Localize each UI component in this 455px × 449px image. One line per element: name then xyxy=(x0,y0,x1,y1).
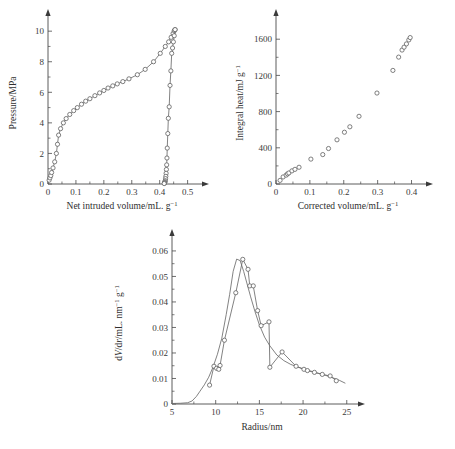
data-point-marker xyxy=(121,80,125,84)
data-point-marker xyxy=(334,379,338,383)
data-point-marker xyxy=(326,146,330,150)
data-point-marker xyxy=(256,309,260,313)
data-point-marker xyxy=(68,112,72,116)
data-point-marker xyxy=(170,51,174,55)
data-point-marker xyxy=(57,133,61,137)
x-axis-tick-label: 15 xyxy=(255,407,265,417)
data-point-marker xyxy=(169,69,173,73)
data-curve-intrusion xyxy=(49,30,175,181)
data-point-marker xyxy=(391,68,395,72)
data-point-marker xyxy=(312,370,316,374)
x-axis-title: Corrected volume/mL. g−1 xyxy=(298,200,399,212)
data-point-marker xyxy=(75,105,79,109)
data-point-marker xyxy=(222,338,226,342)
pressure-chart-svg: 00.10.20.30.40.50246810Net intruded volu… xyxy=(0,0,232,220)
y-axis-tick-label: 4 xyxy=(40,118,45,128)
x-axis-arrow-icon xyxy=(202,181,209,186)
data-point-marker xyxy=(335,138,339,142)
data-point-marker xyxy=(168,83,172,87)
data-point-marker xyxy=(408,35,412,39)
figure-sheet: 00.10.20.30.40.50246810Net intruded volu… xyxy=(0,0,455,449)
data-point-marker xyxy=(143,67,147,71)
y-axis-tick-label: 1600 xyxy=(254,34,273,44)
data-curve-dv-dr-curve xyxy=(172,259,345,403)
data-point-marker xyxy=(241,257,245,261)
data-curve-dv-dr-points xyxy=(210,259,337,385)
data-point-marker xyxy=(267,320,271,324)
y-axis-title: Integral heat/mJ g−1 xyxy=(234,65,246,141)
data-point-marker xyxy=(151,60,155,64)
data-point-marker xyxy=(305,368,309,372)
y-axis-tick-label: 1200 xyxy=(254,71,273,81)
data-point-marker xyxy=(234,291,238,295)
data-point-marker xyxy=(55,142,59,146)
x-axis-tick-label: 25 xyxy=(342,407,352,417)
data-point-marker xyxy=(163,44,167,48)
x-axis-title: Radius/nm xyxy=(241,422,283,432)
data-point-marker xyxy=(167,40,171,44)
x-axis-arrow-icon xyxy=(426,181,433,186)
data-point-marker xyxy=(218,363,222,367)
x-axis-tick-label: 5 xyxy=(170,407,175,417)
data-point-marker xyxy=(51,166,55,170)
x-axis-tick-label: 0 xyxy=(46,187,51,197)
x-axis-tick-label: 0.4 xyxy=(406,187,418,197)
data-point-marker xyxy=(79,102,83,106)
y-axis-tick-label: 10 xyxy=(35,26,45,36)
data-point-marker xyxy=(54,151,58,155)
x-axis-tick-label: 0.3 xyxy=(372,187,384,197)
data-point-marker xyxy=(127,77,131,81)
data-point-marker xyxy=(111,84,115,88)
data-point-marker xyxy=(246,267,250,271)
data-point-marker xyxy=(166,116,170,120)
data-point-marker xyxy=(170,46,174,50)
x-axis-tick-label: 0.3 xyxy=(126,187,138,197)
x-axis-arrow-icon xyxy=(358,401,365,406)
x-axis-tick-label: 0.2 xyxy=(338,187,349,197)
data-point-marker xyxy=(294,364,298,368)
x-axis-tick-label: 20 xyxy=(299,407,309,417)
chart-panel-pressure: 00.10.20.30.40.50246810Net intruded volu… xyxy=(0,0,232,220)
data-point-marker xyxy=(207,383,211,387)
data-point-marker xyxy=(251,284,255,288)
y-axis-tick-label: 0.04 xyxy=(152,297,168,307)
data-point-marker xyxy=(158,51,162,55)
y-axis-tick-label: 0 xyxy=(164,399,169,409)
x-axis-tick-label: 0.2 xyxy=(98,187,109,197)
data-point-marker xyxy=(165,146,169,150)
data-point-marker xyxy=(397,55,401,59)
y-axis-tick-label: 0 xyxy=(268,179,273,189)
x-axis-tick-label: 0.1 xyxy=(304,187,315,197)
data-point-marker xyxy=(375,91,379,95)
data-point-marker xyxy=(102,88,106,92)
data-point-marker xyxy=(320,372,324,376)
data-point-marker xyxy=(404,42,408,46)
data-point-marker xyxy=(293,167,297,171)
data-point-marker xyxy=(166,131,170,135)
data-point-marker xyxy=(58,127,62,131)
data-point-marker xyxy=(135,73,139,77)
integral-heat-chart-svg: 00.10.20.30.4040080012001600Corrected vo… xyxy=(228,0,455,220)
data-point-marker xyxy=(84,99,88,103)
y-axis-tick-label: 0.06 xyxy=(152,246,168,256)
pore-size-distribution-chart-svg: 51015202500.010.020.030.040.050.06Radius… xyxy=(100,218,400,449)
data-point-marker xyxy=(309,157,313,161)
data-point-marker xyxy=(342,130,346,134)
y-axis-title: Pressure/MPa xyxy=(8,76,18,130)
data-point-marker xyxy=(173,28,177,32)
data-point-marker xyxy=(72,109,76,113)
data-point-marker xyxy=(357,114,361,118)
y-axis-arrow-icon xyxy=(45,9,50,16)
data-point-marker xyxy=(162,181,166,185)
data-point-marker xyxy=(171,40,175,44)
y-axis-tick-label: 0.01 xyxy=(152,374,168,384)
x-axis-tick-label: 0.1 xyxy=(70,187,81,197)
data-point-marker xyxy=(297,165,301,169)
data-point-marker xyxy=(93,94,97,98)
data-point-marker xyxy=(280,350,284,354)
data-point-marker xyxy=(321,152,325,156)
data-point-marker xyxy=(64,116,68,120)
x-axis-tick-label: 0 xyxy=(274,187,279,197)
y-axis-tick-label: 8 xyxy=(40,57,45,67)
data-point-marker xyxy=(98,91,102,95)
